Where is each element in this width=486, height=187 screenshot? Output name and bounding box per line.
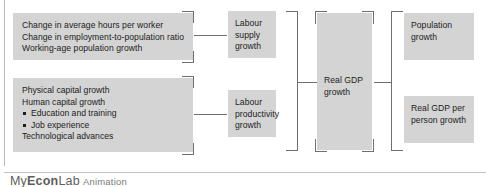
box-real-gdp-growth: Real GDP growth — [317, 13, 372, 150]
bracket-tick — [286, 11, 298, 12]
bracket-tick — [182, 76, 194, 77]
myeconlab-animation-label[interactable]: MyEconLabAnimation — [10, 174, 134, 187]
bracket-column4 — [391, 11, 392, 151]
labour-productivity-growth-text: Labour productivity growth — [235, 97, 272, 132]
list-item: Technological advances — [22, 131, 117, 143]
box-labour-supply-growth: Labour supply growth — [228, 11, 276, 58]
list-item: Education and training — [22, 108, 117, 120]
brand-mid: Econ — [27, 174, 58, 187]
bracket-tick — [362, 151, 374, 152]
bracket-tick — [391, 11, 403, 12]
bracket-tick — [286, 150, 298, 151]
population-growth-text: Population growth — [411, 20, 470, 43]
real-gdp-per-person-growth-text: Real GDP per person growth — [411, 103, 470, 126]
box-real-gdp-per-person-growth: Real GDP per person growth — [404, 96, 474, 143]
bracket-tick — [315, 11, 316, 24]
list-item: Job experience — [22, 120, 117, 132]
connector-column2-to-real-gdp — [297, 82, 317, 83]
list-item: Human capital growth — [22, 97, 117, 109]
brand-suffix: Lab — [58, 174, 79, 187]
bullet-square-icon — [23, 112, 26, 115]
bracket-column2 — [297, 11, 298, 151]
real-gdp-growth-text: Real GDP growth — [324, 75, 368, 98]
figure-left-rule — [4, 0, 5, 166]
figure-root: Change in average hours per worker Chang… — [0, 0, 486, 187]
bracket-tick — [315, 151, 327, 152]
brand-prefix: My — [10, 174, 27, 187]
bracket-tick — [193, 76, 194, 88]
bracket-tick — [182, 154, 194, 155]
footer-rule — [4, 172, 486, 173]
box-labour-supply-sources: Change in average hours per worker Chang… — [13, 13, 193, 60]
connector-real-gdp-to-column4 — [374, 82, 391, 83]
connector-productivity-sources-to-productivity-growth — [194, 114, 227, 115]
myeconlab-brand: MyEconLab — [10, 174, 80, 187]
connector-supply-sources-to-supply-growth — [194, 35, 227, 36]
bracket-tick — [315, 11, 327, 12]
labour-supply-sources-text: Change in average hours per worker Chang… — [22, 20, 189, 55]
animation-label: Animation — [83, 176, 127, 187]
bracket-tick — [193, 11, 194, 23]
list-item-label: Job experience — [31, 120, 89, 130]
bracket-tick — [373, 11, 374, 24]
list-item-label: Education and training — [31, 108, 117, 118]
box-productivity-sources: Physical capital growth Human capital gr… — [13, 78, 193, 152]
bracket-tick — [182, 11, 194, 12]
bullet-square-icon — [23, 124, 26, 127]
bracket-tick — [391, 150, 403, 151]
labour-supply-growth-text: Labour supply growth — [235, 18, 272, 53]
box-labour-productivity-growth: Labour productivity growth — [228, 90, 276, 137]
box-population-growth: Population growth — [404, 13, 474, 60]
productivity-sources-list: Physical capital growth Human capital gr… — [22, 85, 117, 143]
bracket-tick — [362, 11, 374, 12]
figure-footer: MyEconLabAnimation — [4, 166, 486, 187]
bracket-tick — [182, 62, 194, 63]
list-item: Physical capital growth — [22, 85, 117, 97]
